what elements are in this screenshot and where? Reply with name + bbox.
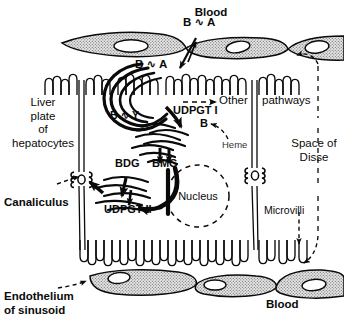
udpgt-2-label: UDPGT II [104,203,152,216]
endothelial-cell [90,270,196,295]
cell-boundary-right [257,80,258,250]
bottom-endothelium-group [90,270,344,298]
canaliculus-label: Canaliculus [4,196,69,210]
heme-label: Heme [222,139,247,150]
apical-microvilli [45,74,299,95]
other-label: Other [219,94,248,108]
liver-plate-label: Liverplateofhepatocytes [12,96,74,150]
nucleus-label: Nucleus [178,190,218,203]
pathways-label: pathways [262,94,311,108]
cell-nucleus [114,40,148,52]
liver-plate-line-4: hepatocytes [12,137,74,149]
b-a-uptake-label: B ∿ A [135,58,167,72]
basal-microvilli [80,240,307,266]
bdg-label: BDG [115,157,139,170]
cell-boundary-right [252,80,254,250]
liver-plate-line-3: of [38,123,48,135]
space-of-disse-line-1: Space of [291,137,336,149]
b-a-blood-label: B ∿ A [183,16,215,30]
top-endothelium-group [62,32,344,60]
blood-label-bottom: Blood [266,298,299,312]
canaliculus-icon [245,168,265,184]
cell-boundary-left [79,80,80,250]
cell-boundary-left [84,80,85,250]
bmg-label: BMG [152,157,178,170]
cell-nucleus [204,280,226,290]
endothelium-label: Endotheliumof sinusoid [4,289,74,318]
liver-plate-line-2: plate [31,110,56,122]
dashed-arrow-icon [58,281,86,288]
microvilli-label: Microvilli [264,204,304,216]
figure-canvas: Blood B ∿ A B ∿ A B ∿ Y Liverplateofhepa… [0,0,344,319]
bilirubin-b-label: B [200,117,208,130]
space-of-disse-line-2: Disse [300,151,329,163]
endothelium-line-2: of sinusoid [4,304,65,316]
endothelium-line-1: Endothelium [4,290,74,302]
space-of-disse-label: Space ofDisse [291,137,336,164]
udpgt-1-label: UDPGT I [173,104,218,117]
liver-plate-line-1: Liver [31,96,56,108]
dashed-arrow-icon [304,236,318,263]
dashed-arrow-icon [211,124,228,139]
b-y-ligandin-label: B ∿ Y [110,109,139,121]
canaliculus-icon [71,172,92,188]
dashed-arrow-icon [57,177,79,184]
